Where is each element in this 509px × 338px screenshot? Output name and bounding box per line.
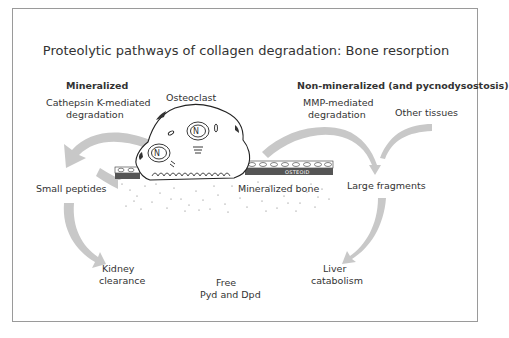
label-kidney-line2: clearance [99, 275, 145, 287]
lining-cells-right [245, 161, 333, 168]
label-liver-line1: Liver [323, 263, 346, 275]
label-liver-line2: catabolism [311, 275, 363, 287]
osteoid-band-left [115, 173, 140, 179]
arrow-other-tissues-to-large-fragments [380, 124, 432, 159]
figure-title: Proteolytic pathways of collagen degrada… [0, 43, 492, 58]
lining-cells-left [115, 167, 140, 173]
label-kidney-line1: Kidney [102, 263, 134, 275]
label-mmp-line1: MMP-mediated [303, 97, 374, 109]
osteoclast-cell [136, 105, 250, 180]
heading-non-mineralized: Non-mineralized (and pycnodysostosis) [297, 80, 509, 92]
label-other-tissues: Other tissues [395, 107, 458, 119]
label-cathepsin-line1: Cathepsin K-mediated [46, 97, 151, 109]
label-nucleus-left: N [154, 148, 160, 160]
label-nucleus-right: N [193, 126, 199, 138]
label-small-peptides: Small peptides [36, 183, 107, 195]
label-osteoclast: Osteoclast [166, 92, 216, 104]
label-large-fragments: Large fragments [347, 180, 426, 192]
label-mineralized-bone: Mineralized bone [238, 183, 319, 195]
label-mmp-line2: degradation [308, 109, 366, 121]
label-cathepsin-line2: degradation [66, 109, 124, 121]
label-free-line2: Pyd and Dpd [200, 289, 261, 301]
label-osteoid: OSTEOID [285, 169, 310, 175]
arrow-large-fragments-to-liver [342, 198, 386, 264]
heading-mineralized: Mineralized [66, 80, 128, 92]
arrow-small-peptides-to-kidney [64, 203, 106, 268]
label-free-line1: Free [216, 277, 236, 289]
